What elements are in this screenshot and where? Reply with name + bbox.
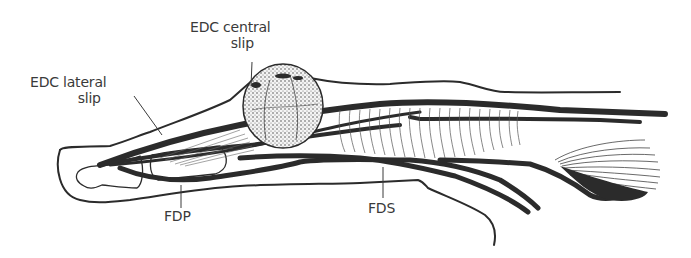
- label-edc-central-slip: EDC central slip: [190, 19, 271, 51]
- finger-tendon-diagram: EDC central slip EDC lateral slip FDP FD…: [0, 0, 691, 258]
- fibers-mid: [339, 108, 520, 158]
- label-edc-lateral-slip: EDC lateral slip: [30, 74, 106, 106]
- extensor-tendons: [100, 102, 665, 165]
- label-fds: FDS: [368, 200, 395, 216]
- label-fdp: FDP: [164, 208, 191, 224]
- finger-anatomy-drawing: [0, 0, 691, 258]
